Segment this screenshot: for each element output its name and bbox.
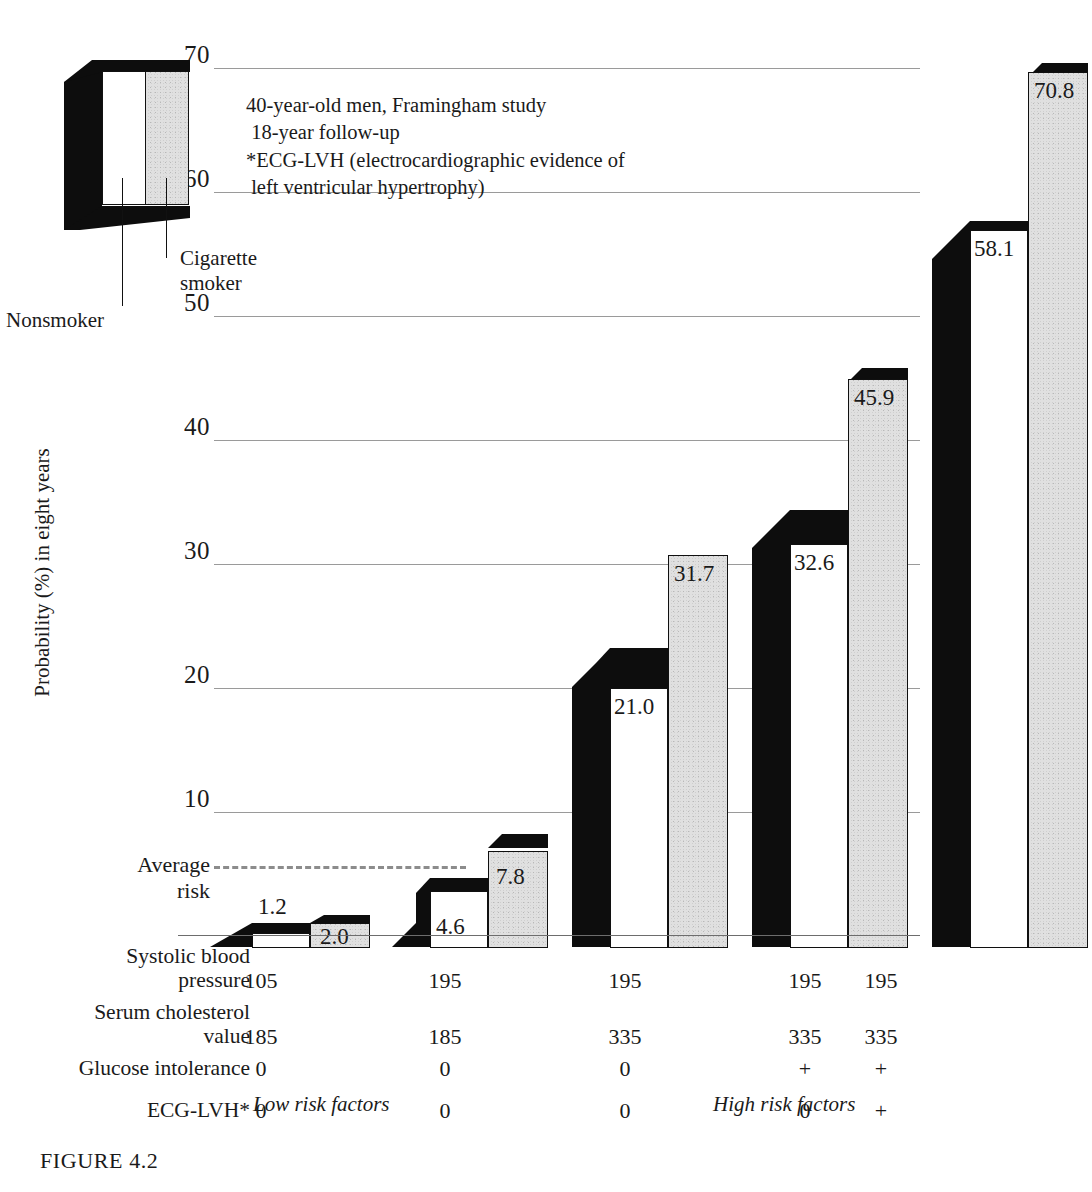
chart-plot-area: 70 60 50 40 30 20 10 Probability (%) in … <box>0 0 926 950</box>
bar-value-nonsmoker-4: 32.6 <box>794 551 834 574</box>
legend-swatch-nonsmoker <box>102 71 146 205</box>
bar-group-3: 21.0 31.7 <box>572 530 752 950</box>
bar-group-5: 58.1 70.8 <box>932 45 1092 950</box>
bar-nonsmoker-3 <box>610 688 668 948</box>
figure-caption: FIGURE 4.2 <box>40 1148 158 1174</box>
bar-nonsmoker-5 <box>970 230 1028 948</box>
table-row-systolic: Systolic blood pressure 105 195 195 195 … <box>0 946 926 998</box>
cell-glucose-1: 0 <box>216 1056 306 1082</box>
bar-smoker-5 <box>1028 72 1088 948</box>
cell-ecglvh-2: 0 <box>400 1098 490 1124</box>
ytick-label-40: 40 <box>168 414 210 439</box>
bar-smoker-3 <box>668 555 728 948</box>
cell-glucose-2: 0 <box>400 1056 490 1082</box>
chart-note: 40-year-old men, Framingham study 18-yea… <box>246 92 625 201</box>
table-row-cholesterol: Serum cholesterol value 185 185 335 335 … <box>0 998 926 1050</box>
gridline-70 <box>214 68 920 69</box>
row-label-ecglvh: ECG-LVH* <box>0 1098 250 1122</box>
high-risk-label: High risk factors <box>713 1092 855 1117</box>
bar-nonsmoker-4 <box>790 544 848 948</box>
cell-cholesterol-2: 185 <box>400 1024 490 1050</box>
bar-value-smoker-2: 7.8 <box>496 865 525 888</box>
ytick-label-10: 10 <box>168 786 210 811</box>
cell-cholesterol-1: 185 <box>216 1024 306 1050</box>
bar-value-smoker-3: 31.7 <box>674 562 714 585</box>
y-axis-label: Probability (%) in eight years <box>30 363 55 783</box>
legend-label-nonsmoker: Nonsmoker <box>6 308 104 333</box>
bar-group-2: 4.6 7.8 <box>392 820 572 950</box>
bar-value-smoker-1: 2.0 <box>320 925 349 948</box>
bar-value-smoker-4: 45.9 <box>854 386 894 409</box>
low-risk-label: Low risk factors <box>253 1092 390 1117</box>
legend: Cigarette smoker Nonsmoker <box>64 60 204 230</box>
cell-ecglvh-3: 0 <box>580 1098 670 1124</box>
cell-systolic-2: 195 <box>400 968 490 994</box>
legend-leader-smoker <box>166 178 167 258</box>
bar-value-smoker-5: 70.8 <box>1034 79 1074 102</box>
ytick-label-20: 20 <box>168 662 210 687</box>
cell-cholesterol-5: 335 <box>836 1024 926 1050</box>
cell-systolic-3: 195 <box>580 968 670 994</box>
cell-systolic-5: 195 <box>836 968 926 994</box>
x-axis-baseline <box>178 935 920 936</box>
row-label-cholesterol: Serum cholesterol value <box>0 1000 250 1048</box>
bar-value-nonsmoker-1: 1.2 <box>258 895 287 918</box>
bar-value-nonsmoker-5: 58.1 <box>974 237 1014 260</box>
legend-swatch-smoker <box>145 71 189 205</box>
legend-leader-nonsmoker <box>122 178 123 306</box>
average-risk-label: Average risk <box>40 852 210 905</box>
table-row-glucose: Glucose intolerance 0 0 0 + + <box>0 1050 926 1092</box>
bar-group-4: 32.6 45.9 <box>752 360 932 950</box>
ytick-label-30: 30 <box>168 538 210 563</box>
bar-group-1: 1.2 2.0 <box>210 890 380 950</box>
bar-value-nonsmoker-3: 21.0 <box>614 695 654 718</box>
gridline-50 <box>214 316 920 317</box>
cell-glucose-5: + <box>836 1056 926 1082</box>
bar-smoker-4 <box>848 379 908 948</box>
cell-systolic-1: 105 <box>216 968 306 994</box>
cell-glucose-3: 0 <box>580 1056 670 1082</box>
row-label-systolic: Systolic blood pressure <box>0 944 250 992</box>
row-label-glucose: Glucose intolerance <box>0 1056 250 1080</box>
legend-label-smoker: Cigarette smoker <box>180 246 257 296</box>
cell-cholesterol-3: 335 <box>580 1024 670 1050</box>
